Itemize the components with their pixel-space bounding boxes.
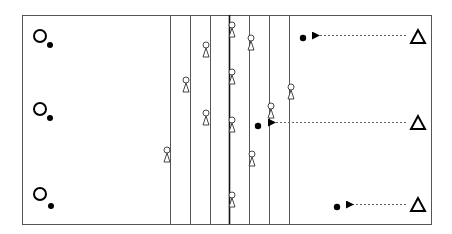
cone-figure-icon bbox=[203, 42, 209, 57]
ball-icon bbox=[47, 42, 53, 48]
cone-figure-icon bbox=[183, 77, 189, 92]
circle-player-icon bbox=[34, 30, 46, 42]
cone-figure-icon bbox=[268, 103, 274, 118]
pass-sequence bbox=[300, 30, 425, 43]
cone-figure-icon bbox=[164, 147, 170, 162]
ball-icon bbox=[255, 123, 261, 129]
cone-figure-icon bbox=[288, 84, 294, 99]
pass-arrows bbox=[255, 30, 425, 211]
player-with-ball bbox=[34, 188, 54, 209]
ball-icon bbox=[334, 204, 340, 210]
triangle-player-icon bbox=[411, 116, 425, 129]
triangle-player-icon bbox=[411, 30, 425, 43]
pass-sequence bbox=[334, 198, 425, 211]
left-player-group bbox=[34, 30, 54, 209]
triangle-player-icon bbox=[411, 198, 425, 211]
ball-icon bbox=[300, 35, 306, 41]
cone-figure-icon bbox=[203, 110, 209, 125]
player-with-ball bbox=[34, 30, 53, 48]
drill-diagram bbox=[0, 0, 452, 234]
circle-player-icon bbox=[34, 103, 46, 115]
ball-icon bbox=[48, 203, 54, 209]
player-with-ball bbox=[34, 103, 53, 121]
ball-icon bbox=[47, 115, 53, 121]
circle-player-icon bbox=[34, 188, 46, 200]
pass-sequence bbox=[255, 116, 425, 129]
cone-figure-icon bbox=[248, 35, 254, 50]
field-frame bbox=[23, 16, 432, 225]
